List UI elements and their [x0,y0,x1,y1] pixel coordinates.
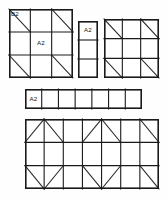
grid-cell[interactable] [52,32,73,55]
bottom-large-panel-grid [25,119,159,189]
grid-cell[interactable] [141,39,159,59]
grid-cell[interactable] [25,142,44,165]
grid-cell[interactable] [140,142,159,165]
middle-column-panel[interactable]: A2 [78,21,98,78]
grid-cell[interactable] [121,166,140,189]
grid-cell[interactable] [121,142,140,165]
grid-cell[interactable] [44,142,63,165]
grid-cell[interactable] [30,9,51,32]
grid-cell[interactable] [78,40,98,59]
top-right-panel-grid [104,19,159,78]
top-right-panel[interactable] [104,19,159,78]
horizontal-strip-panel[interactable]: A2 [25,89,142,109]
grid-cell[interactable] [82,142,101,165]
grid-cell[interactable] [122,39,140,59]
grid-cell[interactable] [75,89,92,109]
grid-cell[interactable] [63,142,82,165]
grid-cell[interactable] [9,32,30,55]
grid-cell[interactable] [109,89,126,109]
horizontal-strip-panel-grid [25,89,142,109]
grid-cell[interactable] [58,89,75,109]
top-left-panel-grid [9,9,73,78]
grid-cell[interactable] [42,89,59,109]
grid-cell[interactable] [63,166,82,189]
grid-cell[interactable] [122,58,140,78]
grid-cell[interactable] [125,89,142,109]
grid-cell[interactable] [121,119,140,142]
grid-cell[interactable] [92,89,109,109]
grid-cell[interactable] [104,39,122,59]
drawing-canvas: B2A2A2A2 [0,0,168,199]
grid-cell[interactable] [63,119,82,142]
middle-column-panel-grid [78,21,98,78]
grid-cell[interactable] [78,59,98,78]
grid-cell[interactable] [102,142,121,165]
grid-cell[interactable] [30,55,51,78]
grid-cell[interactable] [25,89,42,109]
grid-cell[interactable] [122,19,140,39]
bottom-large-panel[interactable] [25,119,159,189]
grid-cell[interactable] [30,32,51,55]
top-left-panel[interactable]: B2A2 [9,9,73,78]
grid-cell[interactable] [78,21,98,40]
